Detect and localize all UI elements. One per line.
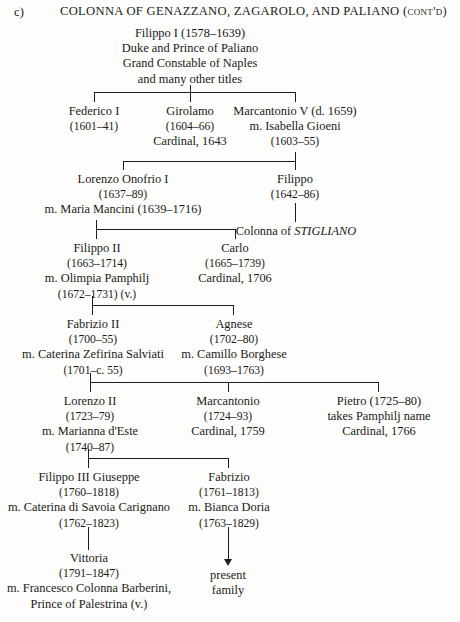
present-family-line-2: family	[188, 583, 268, 598]
family-tree-diagram: c) COLONNA OF GENAZZANO, ZAGAROLO, AND P…	[0, 0, 460, 622]
node-dates: (1601–41)	[44, 119, 144, 134]
node-filippo-stigliano: Filippo (1642–86)	[245, 172, 345, 202]
connector-bar-gen3	[96, 229, 236, 230]
connector-drop-filippo-iii	[88, 458, 89, 468]
connector-drop-filippo-stigliano	[295, 161, 296, 170]
node-name: Filippo II	[22, 241, 172, 256]
node-name: Fabrizio II	[8, 317, 178, 332]
node-name: Filippo	[245, 172, 345, 187]
node-name: Marcantonio V (d. 1659)	[225, 104, 365, 119]
node-title: Cardinal, 1766	[308, 424, 450, 439]
node-dates: (1724–93)	[170, 409, 286, 424]
connector-drop-lorenzo-ii	[90, 382, 91, 392]
node-lorenzo-onofrio-i: Lorenzo Onofrio I (1637–89) m. Maria Man…	[38, 172, 208, 218]
node-pietro: Pietro (1725–80) takes Pamphilj name Car…	[308, 394, 450, 440]
node-spouse-dates: (1672–1731) (v.)	[22, 287, 172, 302]
connector-drop-lorenzo-onofrio	[123, 161, 124, 170]
node-spouse: m. Caterina di Savoia Carignano	[3, 500, 175, 515]
node-spouse: m. Caterina Zefirina Salviati	[8, 347, 178, 362]
connector-drop-filippo-ii	[96, 229, 97, 239]
node-name: Federico I	[44, 104, 144, 119]
node-name: Filippo I (1578–1639)	[95, 26, 285, 41]
node-dates: (1761–1813)	[172, 485, 286, 500]
connector-bar-gen1	[94, 92, 296, 93]
node-dates: (1663–1714)	[22, 256, 172, 271]
node-federico-i: Federico I (1601–41)	[44, 104, 144, 134]
node-name: Filippo III Giuseppe	[3, 470, 175, 485]
connector-drop-marcantonio-v	[295, 92, 296, 102]
connector-stem-stigliano	[295, 203, 296, 222]
present-family-line-1: present	[188, 568, 268, 583]
node-name: Pietro (1725–80)	[308, 394, 450, 409]
node-dates: (1637–89)	[38, 187, 208, 202]
connector-drop-girolamo	[190, 92, 191, 102]
node-filippo-ii: Filippo II (1663–1714) m. Olimpia Pamphi…	[22, 241, 172, 302]
connector-drop-carlo	[235, 229, 236, 239]
node-filippo-i: Filippo I (1578–1639) Duke and Prince of…	[95, 26, 285, 87]
node-spouse-title: Prince of Palestrina (v.)	[2, 597, 176, 612]
node-spouse: m. Olimpia Pamphilj	[22, 271, 172, 286]
section-label: c)	[14, 5, 24, 20]
node-fabrizio: Fabrizio (1761–1813) m. Bianca Doria (17…	[172, 470, 286, 531]
node-marcantonio-v: Marcantonio V (d. 1659) m. Isabella Gioe…	[225, 104, 365, 150]
node-detail-1: Duke and Prince of Paliano	[95, 41, 285, 56]
connector-stem-vittoria	[88, 527, 89, 550]
connector-drop-fabrizio-ii	[92, 305, 93, 315]
branch-label: Colonna of STIGLIANO	[228, 224, 364, 239]
connector-drop-marcantonio	[228, 382, 229, 392]
node-name: Carlo	[180, 241, 290, 256]
node-carlo: Carlo (1665–1739) Cardinal, 1706	[180, 241, 290, 287]
node-filippo-iii-giuseppe: Filippo III Giuseppe (1760–1818) m. Cate…	[3, 470, 175, 531]
node-title: Cardinal, 1706	[180, 271, 290, 286]
node-name: Lorenzo II	[16, 394, 164, 409]
node-note: takes Pamphilj name	[308, 409, 450, 424]
node-spouse-dates: (1701–c. 55)	[8, 363, 178, 378]
branch-prefix: Colonna of	[236, 224, 295, 238]
connector-bar-gen2	[123, 161, 296, 162]
connector-stem-gen6	[88, 449, 89, 458]
arrow-down-icon	[224, 559, 232, 566]
node-spouse: m. Francesco Colonna Barberini,	[2, 581, 176, 596]
node-spouse: m. Camillo Borghese	[173, 347, 295, 362]
connector-stem-gen3	[96, 220, 97, 229]
node-dates: (1700–55)	[8, 332, 178, 347]
node-spouse: m. Bianca Doria	[172, 500, 286, 515]
node-spouse: m. Maria Mancini (1639–1716)	[38, 202, 208, 217]
connector-bar-gen5	[90, 382, 379, 383]
node-fabrizio-ii: Fabrizio II (1700–55) m. Caterina Zefiri…	[8, 317, 178, 378]
branch-house-name: STIGLIANO	[294, 224, 356, 238]
connector-bar-gen6	[88, 458, 229, 459]
node-spouse-dates: (1740–87)	[16, 440, 164, 455]
node-name: Agnese	[173, 317, 295, 332]
node-dates: (1603–55)	[225, 134, 365, 149]
node-name: Fabrizio	[172, 470, 286, 485]
connector-bar-gen4	[92, 305, 234, 306]
node-name: Lorenzo Onofrio I	[38, 172, 208, 187]
node-vittoria: Vittoria (1791–1847) m. Francesco Colonn…	[2, 551, 176, 612]
node-spouse: m. Marianna d'Este	[16, 424, 164, 439]
connector-stem-gen2	[295, 152, 296, 161]
node-name: Vittoria	[2, 551, 176, 566]
connector-drop-pietro	[378, 382, 379, 392]
node-present-family: present family	[188, 568, 268, 598]
connector-stem-present-family	[228, 527, 229, 561]
node-dates: (1791–1847)	[2, 566, 176, 581]
connector-drop-federico	[94, 92, 95, 102]
node-lorenzo-ii: Lorenzo II (1723–79) m. Marianna d'Este …	[16, 394, 164, 455]
node-name: Marcantonio	[170, 394, 286, 409]
node-spouse-dates: (1693–1763)	[173, 363, 295, 378]
node-spouse: m. Isabella Gioeni	[225, 119, 365, 134]
node-spouse-dates: (1762–1823)	[3, 516, 175, 531]
page-title: COLONNA OF GENAZZANO, ZAGAROLO, AND PALI…	[60, 4, 456, 19]
node-agnese: Agnese (1702–80) m. Camillo Borghese (16…	[173, 317, 295, 378]
node-title: Cardinal, 1759	[170, 424, 286, 439]
connector-stem-gen5	[90, 373, 91, 382]
node-dates: (1642–86)	[245, 187, 345, 202]
node-spouse-dates: (1763–1829)	[172, 516, 286, 531]
node-dates: (1723–79)	[16, 409, 164, 424]
node-dates: (1760–1818)	[3, 485, 175, 500]
node-dates: (1702–80)	[173, 332, 295, 347]
connector-stem-gen4	[92, 296, 93, 305]
connector-drop-agnese	[233, 305, 234, 315]
node-marcantonio: Marcantonio (1724–93) Cardinal, 1759	[170, 394, 286, 440]
